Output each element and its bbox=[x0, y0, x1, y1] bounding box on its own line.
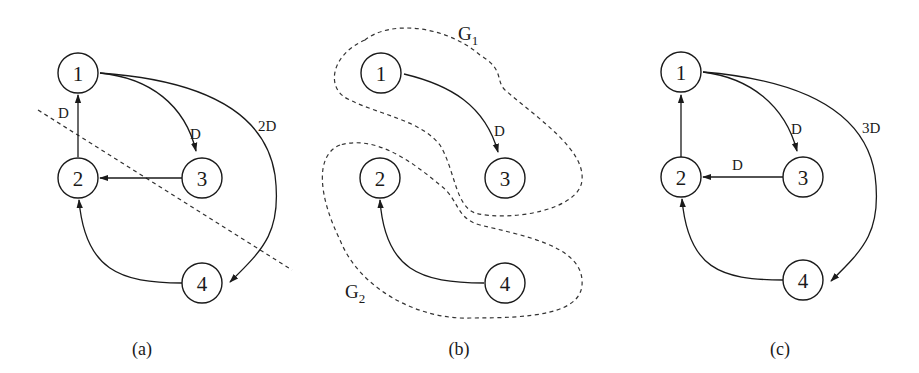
group-label-g2: G2 bbox=[345, 281, 365, 306]
svg-text:1: 1 bbox=[376, 62, 387, 86]
svg-text:4: 4 bbox=[798, 269, 809, 293]
edge-label: D bbox=[791, 121, 802, 137]
edge-1-to-3 bbox=[703, 72, 797, 151]
node-3: 3 bbox=[783, 157, 823, 197]
node-4: 4 bbox=[182, 263, 222, 303]
node-3: 3 bbox=[485, 158, 525, 198]
svg-text:1: 1 bbox=[73, 62, 84, 86]
edge-1-to-3 bbox=[404, 74, 498, 152]
node-1: 1 bbox=[661, 52, 701, 92]
node-1: 1 bbox=[58, 53, 98, 93]
edge-label: D bbox=[58, 105, 69, 121]
edge-4-to-2 bbox=[380, 200, 484, 283]
panel-a: D D 2D 1 2 3 4 (a) bbox=[38, 53, 292, 360]
svg-text:3: 3 bbox=[197, 167, 208, 191]
caption-c: (c) bbox=[770, 339, 790, 360]
panel-c: D 3D D 1 2 3 4 (c) bbox=[661, 52, 881, 360]
svg-text:1: 1 bbox=[676, 61, 687, 85]
edge-4-to-2 bbox=[682, 199, 783, 280]
figure-canvas: D D 2D 1 2 3 4 (a) G1 G2 D 1 2 3 4 (b) bbox=[0, 0, 919, 373]
edge-label: 2D bbox=[258, 118, 277, 134]
edge-4-to-2 bbox=[79, 200, 182, 283]
svg-text:2: 2 bbox=[676, 166, 687, 190]
node-4: 4 bbox=[485, 263, 525, 303]
svg-text:4: 4 bbox=[197, 272, 208, 296]
svg-text:2: 2 bbox=[375, 167, 386, 191]
node-2: 2 bbox=[360, 158, 400, 198]
caption-a: (a) bbox=[132, 339, 152, 360]
edge-label: D bbox=[494, 123, 505, 139]
node-2: 2 bbox=[58, 158, 98, 198]
node-3: 3 bbox=[182, 158, 222, 198]
panel-b: G1 G2 D 1 2 3 4 (b) bbox=[322, 23, 582, 360]
node-2: 2 bbox=[661, 157, 701, 197]
edge-label: 3D bbox=[862, 120, 881, 136]
svg-text:3: 3 bbox=[500, 167, 511, 191]
group-label-g1: G1 bbox=[458, 23, 478, 48]
svg-text:2: 2 bbox=[73, 167, 84, 191]
caption-b: (b) bbox=[449, 339, 470, 360]
node-4: 4 bbox=[783, 260, 823, 300]
node-1: 1 bbox=[361, 53, 401, 93]
svg-text:4: 4 bbox=[500, 272, 511, 296]
edge-label: D bbox=[732, 157, 743, 173]
edge-label: D bbox=[190, 126, 201, 142]
svg-text:3: 3 bbox=[798, 166, 809, 190]
edge-1-to-3 bbox=[100, 73, 196, 151]
